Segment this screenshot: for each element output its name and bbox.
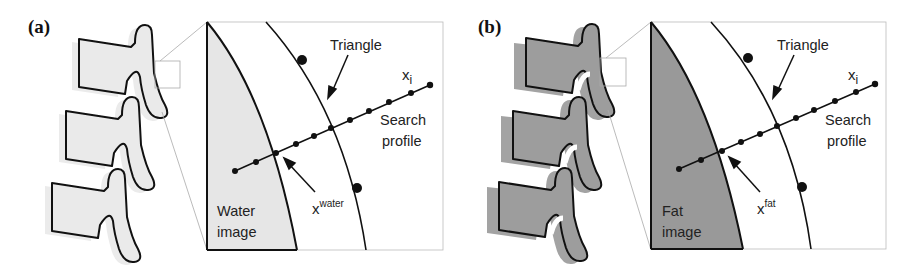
panel-a: (a)	[28, 16, 443, 265]
vertebrae-a	[45, 25, 167, 265]
triangle-label-b: Triangle	[777, 37, 829, 53]
water-image-label-line1: Water	[217, 203, 255, 219]
panel-label-a: (a)	[28, 16, 50, 38]
figure-canvas: (a)	[0, 0, 918, 266]
triangle-label-a: Triangle	[330, 37, 382, 53]
mesh-vertex-bottom-a	[352, 183, 362, 193]
panel-label-b: (b)	[478, 16, 501, 38]
search-label-a-line2: profile	[382, 133, 422, 149]
zoom-connector-top-a	[160, 22, 207, 61]
fat-image-label-line1: Fat	[662, 203, 683, 219]
search-label-a-line1: Search	[380, 112, 426, 128]
vertebra-b-3	[487, 168, 587, 264]
vertebra-3	[45, 169, 140, 265]
zoom-connector-bottom-a	[162, 112, 207, 250]
mesh-vertex-top-b	[743, 53, 753, 63]
panel-b: (b)	[478, 16, 886, 264]
search-label-b-line1: Search	[825, 112, 871, 128]
vertebrae-b	[487, 24, 614, 264]
fat-image-label-line2: image	[662, 224, 702, 240]
search-label-b-line2: profile	[827, 133, 867, 149]
zoom-region-box-a	[155, 61, 180, 88]
water-image-label-line2: image	[217, 224, 257, 240]
mesh-vertex-bottom-b	[797, 182, 807, 192]
mesh-vertex-top-a	[297, 55, 307, 65]
zoom-connector-top-b	[606, 22, 651, 58]
zoom-connector-bottom-b	[608, 110, 651, 250]
